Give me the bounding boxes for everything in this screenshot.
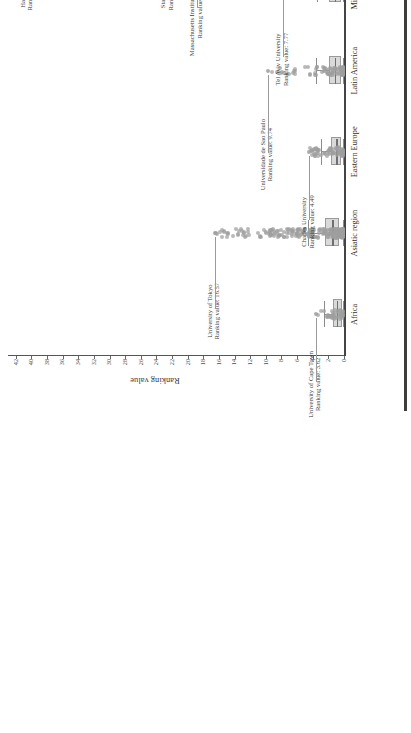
y-tick-label: 38 xyxy=(44,359,50,411)
x-category-label-middle-east: Middle East xyxy=(350,0,359,30)
whisker-cap-lower xyxy=(343,0,344,2)
data-point xyxy=(316,154,320,158)
annotation-ranking-value: Ranking value: 40.50 xyxy=(26,0,34,28)
data-point xyxy=(320,70,324,74)
y-tick-label: 16 xyxy=(216,359,222,411)
figure-bottom-rule xyxy=(404,0,407,411)
plot-area xyxy=(8,0,344,355)
data-point xyxy=(322,151,326,155)
data-point xyxy=(328,228,332,232)
annotation-charles: Charles UniversityRanking value: 4.49 xyxy=(300,176,315,268)
annotation-tokyo: University of TokyoRanking value: 16.57 xyxy=(206,265,221,357)
data-point xyxy=(335,233,339,237)
y-axis-line xyxy=(8,355,344,356)
annotation-university-name: Charles University xyxy=(300,176,308,268)
y-tick-mark xyxy=(156,356,157,359)
chart-canvas: Ranking value 42403836343230282624222018… xyxy=(0,0,411,733)
annotation-leader-line-tokyo xyxy=(215,237,216,309)
data-point xyxy=(315,65,319,69)
data-point xyxy=(220,235,224,239)
x-category-label-africa: Africa xyxy=(350,274,359,355)
y-tick-label: 14 xyxy=(231,359,237,411)
data-point xyxy=(318,227,322,231)
data-point xyxy=(341,154,345,158)
data-point xyxy=(326,313,330,317)
y-tick-label: 8 xyxy=(278,359,284,411)
y-tick-label: 20 xyxy=(185,359,191,411)
data-point xyxy=(244,234,248,238)
y-tick-mark xyxy=(250,356,251,359)
y-tick-label: 12 xyxy=(247,359,253,411)
y-tick-mark xyxy=(16,356,17,359)
x-category-label-eastern-europe: Eastern Europe xyxy=(350,111,359,192)
y-tick-label: 22 xyxy=(169,359,175,411)
annotation-sao-paulo: Universidade de Sao PauloRanking value: … xyxy=(259,109,274,201)
annotation-university-name: University of Tokyo xyxy=(206,265,214,357)
data-point xyxy=(303,65,307,69)
y-tick-mark xyxy=(125,356,126,359)
y-tick-mark xyxy=(78,356,79,359)
y-tick-mark xyxy=(328,356,329,359)
annotation-university-name: University of Cape Town xyxy=(307,338,315,430)
data-point xyxy=(340,72,344,76)
y-tick-label: 42 xyxy=(13,359,19,411)
median-line xyxy=(335,0,337,2)
annotation-university-name: Stanford University xyxy=(159,0,167,28)
outlier-point-max xyxy=(266,69,270,73)
data-point xyxy=(334,70,338,74)
x-category-label-asiatic-region: Asiatic region xyxy=(350,193,359,274)
annotation-leader-line-tel-aviv xyxy=(283,0,284,57)
y-tick-label: 30 xyxy=(106,359,112,411)
y-tick-label: 40 xyxy=(28,359,34,411)
annotation-stanford: Stanford UniversityRanking value: 22.51 xyxy=(159,0,174,28)
y-tick-label: 34 xyxy=(75,359,81,411)
data-point xyxy=(258,234,262,238)
annotation-leader-line-sao-paulo xyxy=(268,75,269,153)
annotation-tel-aviv: Tel Aviv UniversityRanking value: 7.77 xyxy=(274,13,289,105)
data-point xyxy=(239,227,243,231)
annotation-ranking-value: Ranking value: 22.51 xyxy=(167,0,175,28)
data-point xyxy=(231,234,235,238)
y-tick-label: 0 xyxy=(341,359,347,411)
y-tick-label: 32 xyxy=(91,359,97,411)
y-tick-mark xyxy=(235,356,236,359)
annotation-cape-town: University of Cape TownRanking value: 3.… xyxy=(307,338,322,430)
boxplot-figure: Ranking value 42403836343230282624222018… xyxy=(0,0,411,411)
data-point xyxy=(285,235,289,239)
y-tick-label: 28 xyxy=(122,359,128,411)
data-point xyxy=(308,73,312,77)
y-tick-label: 24 xyxy=(153,359,159,411)
data-point xyxy=(282,230,286,234)
y-tick-mark xyxy=(31,356,32,359)
y-tick-mark xyxy=(281,356,282,359)
y-tick-mark xyxy=(63,356,64,359)
annotation-university-name: Universidade de Sao Paulo xyxy=(259,109,267,201)
annotation-university-name: Massachusetts Institute of Technology xyxy=(188,0,196,56)
y-tick-label: 18 xyxy=(200,359,206,411)
annotation-ranking-value: Ranking value: 18.77 xyxy=(196,0,204,56)
y-tick-mark xyxy=(297,356,298,359)
y-tick-mark xyxy=(141,356,142,359)
y-tick-label: 6 xyxy=(294,359,300,411)
data-point xyxy=(241,233,245,237)
y-tick-mark xyxy=(110,356,111,359)
y-tick-mark xyxy=(172,356,173,359)
outlier-point-max xyxy=(307,150,311,154)
y-tick-mark xyxy=(47,356,48,359)
x-axis-line xyxy=(344,0,346,356)
data-point xyxy=(291,227,295,231)
y-tick-label: 26 xyxy=(138,359,144,411)
y-tick-label: 2 xyxy=(325,359,331,411)
data-point xyxy=(272,234,276,238)
annotation-mit: Massachusetts Institute of TechnologyRan… xyxy=(188,0,203,56)
data-point xyxy=(332,314,336,318)
x-category-label-latin-america: Latin America xyxy=(350,30,359,111)
annotation-leader-line-charles xyxy=(309,156,310,220)
data-point xyxy=(264,231,268,235)
data-point xyxy=(313,73,317,77)
whisker-cap-upper xyxy=(317,0,318,2)
annotation-university-name: Harvard University xyxy=(19,0,27,28)
data-point xyxy=(246,227,250,231)
y-tick-mark xyxy=(266,356,267,359)
y-tick-mark xyxy=(188,356,189,359)
